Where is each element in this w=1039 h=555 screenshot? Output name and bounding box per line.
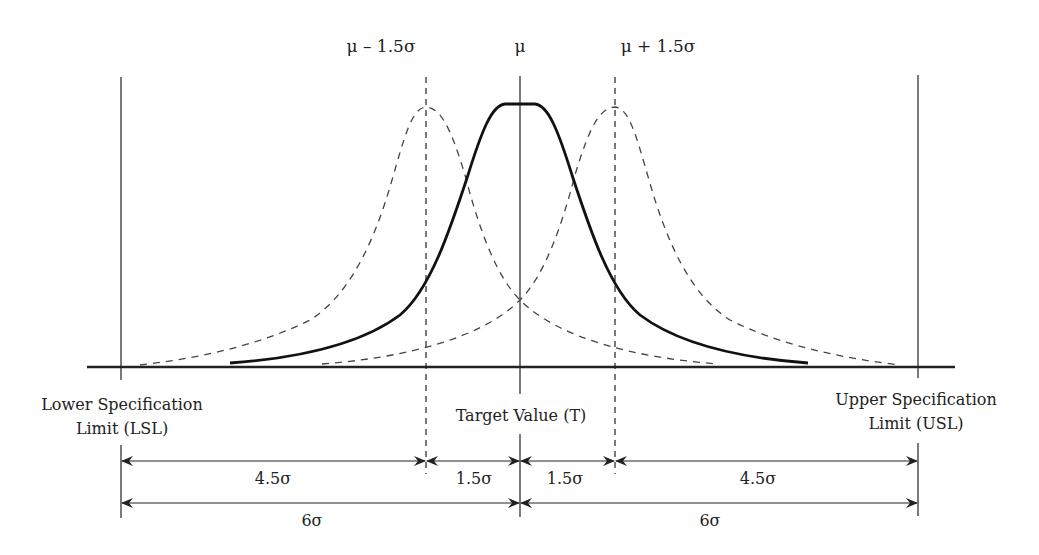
dim-label-4.5-left: 4.5σ bbox=[255, 469, 291, 488]
six-sigma-diagram: μ – 1.5σ μ μ + 1.5σ Lower Specification … bbox=[0, 0, 1039, 555]
label-mu-plus: μ + 1.5σ bbox=[621, 36, 696, 56]
dim-label-6-right: 6σ bbox=[699, 511, 720, 530]
usl-label-line1: Upper Specification bbox=[835, 390, 997, 409]
dim-label-4.5-right: 4.5σ bbox=[740, 469, 776, 488]
dim-label-1.5-left: 1.5σ bbox=[456, 469, 492, 488]
dim-label-6-left: 6σ bbox=[301, 511, 322, 530]
left-shifted-curve bbox=[140, 107, 718, 365]
target-label: Target Value (T) bbox=[456, 406, 587, 425]
label-mu-minus: μ – 1.5σ bbox=[347, 36, 416, 56]
lsl-label-line2: Limit (LSL) bbox=[76, 419, 168, 438]
usl-label-line2: Limit (USL) bbox=[868, 414, 963, 433]
dim-label-1.5-right: 1.5σ bbox=[547, 469, 583, 488]
lsl-label-line1: Lower Specification bbox=[41, 395, 203, 414]
centered-curve bbox=[230, 104, 808, 363]
right-shifted-curve bbox=[322, 107, 900, 365]
label-mu: μ bbox=[514, 36, 525, 56]
